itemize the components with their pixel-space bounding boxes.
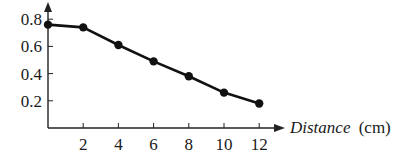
data-point-marker — [79, 23, 87, 31]
data-point-marker — [255, 99, 263, 107]
x-axis-title-italic: Distance — [289, 118, 351, 137]
y-tick-label: 0.4 — [21, 65, 43, 84]
line-chart: 0.20.40.60.824681012 Distance (cm) — [0, 0, 410, 156]
x-axis-title: Distance (cm) — [289, 118, 391, 137]
y-axis-arrow-icon — [44, 2, 52, 12]
y-tick-label: 0.6 — [21, 37, 42, 56]
x-tick-label: 10 — [216, 135, 233, 154]
x-axis-title-unit: (cm) — [359, 118, 391, 137]
x-tick-label: 12 — [251, 135, 268, 154]
x-tick-label: 6 — [149, 135, 158, 154]
data-point-marker — [114, 41, 122, 49]
x-axis-arrow-icon — [274, 124, 285, 132]
x-tick-label: 2 — [79, 135, 88, 154]
data-point-marker — [149, 57, 157, 65]
y-tick-label: 0.2 — [21, 92, 42, 111]
data-series — [44, 20, 264, 107]
x-tick-label: 4 — [114, 135, 123, 154]
y-tick-label: 0.8 — [21, 10, 42, 29]
x-tick-label: 8 — [185, 135, 194, 154]
data-point-marker — [220, 88, 228, 96]
ticks: 0.20.40.60.824681012 — [21, 10, 268, 154]
data-point-marker — [44, 20, 52, 28]
data-point-marker — [185, 72, 193, 80]
